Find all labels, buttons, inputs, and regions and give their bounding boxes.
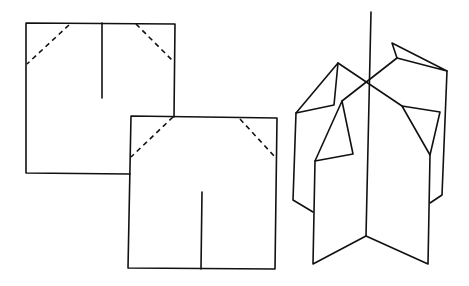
square-1-fold-line-right	[136, 24, 174, 62]
left-top-fold	[296, 63, 338, 113]
vertical-pole	[366, 12, 371, 236]
front-left-panel	[313, 161, 366, 264]
diagram-svg	[0, 0, 469, 286]
back-right-panel	[430, 71, 447, 203]
left-folded-triangle	[315, 101, 353, 161]
square-sheet-2	[128, 116, 277, 269]
front-right-panel	[366, 155, 430, 264]
square-2-cut-line	[201, 192, 202, 269]
square-1-outline	[26, 23, 175, 174]
square-2-fold-line-right	[240, 119, 275, 157]
right-top-fold	[392, 43, 447, 71]
folded-assembly-3d	[293, 12, 447, 264]
square-1-fold-line-left	[27, 25, 69, 64]
square-2-fold-line-left	[131, 117, 173, 157]
right-folded-triangle	[402, 106, 440, 155]
back-left-panel	[293, 113, 313, 212]
square-sheet-1	[26, 23, 175, 174]
folding-diagram	[0, 0, 469, 286]
